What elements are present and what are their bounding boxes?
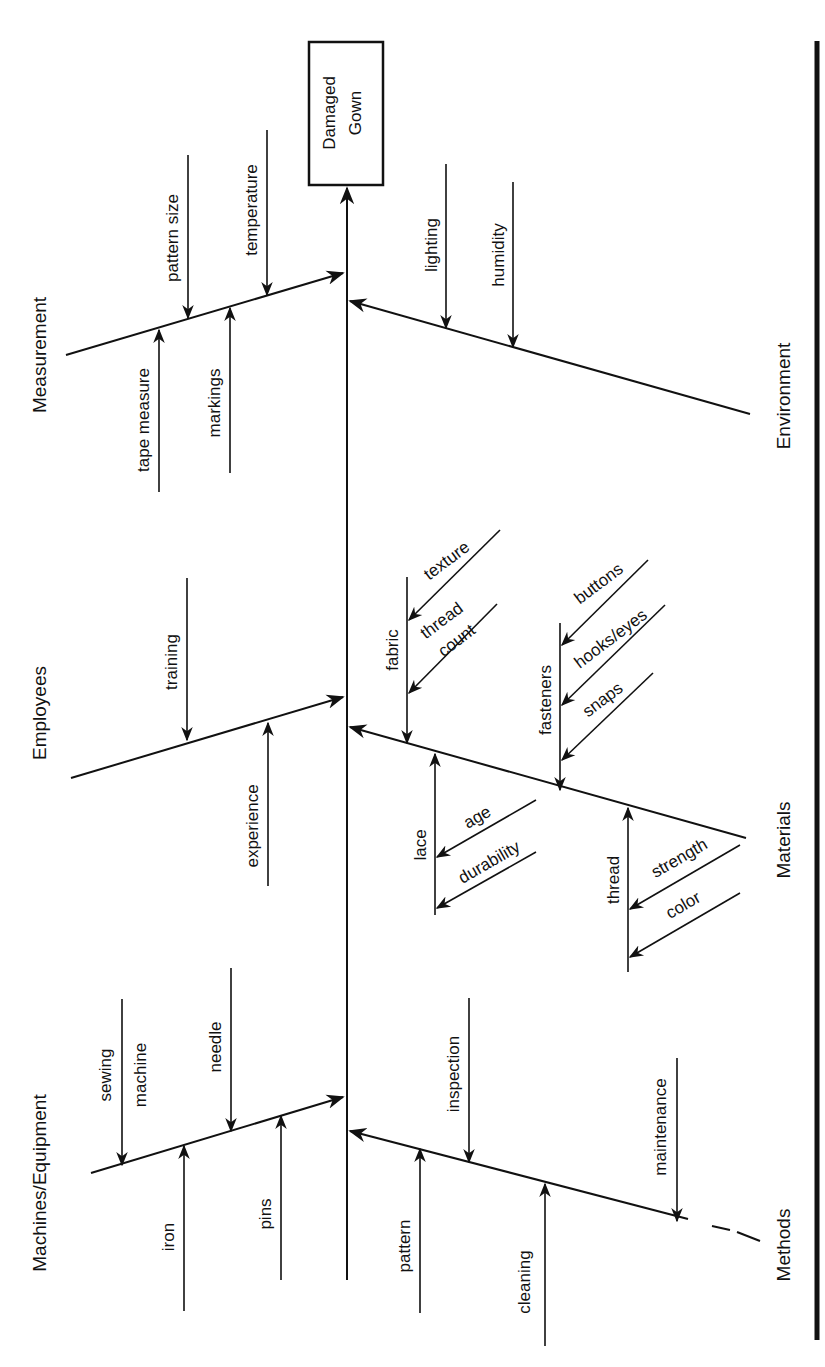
branch-methods: Methods inspection maintenance pattern c… — [350, 998, 794, 1346]
category-employees: Employees — [29, 666, 50, 760]
cause-pins: pins — [256, 1198, 275, 1229]
category-materials: Materials — [773, 801, 794, 878]
effect-label-line1: Damaged — [320, 76, 339, 150]
cause-maintenance: maintenance — [651, 1078, 670, 1175]
branch-employees: Employees training experience — [29, 578, 343, 886]
category-environment: Environment — [773, 342, 794, 449]
effect-label-line2: Gown — [346, 91, 365, 135]
cause-sewing-machine-line2: machine — [131, 1043, 150, 1107]
cause-temperature: temperature — [242, 164, 261, 256]
cause-needle: needle — [206, 1021, 225, 1072]
cause-lighting: lighting — [422, 218, 441, 272]
fishbone-diagram: Damaged Gown Measurement pattern size te… — [0, 0, 825, 1367]
cause-pattern: pattern — [395, 1220, 414, 1273]
cause-markings: markings — [205, 369, 224, 438]
sub-cause-fasteners: fasteners — [536, 665, 555, 735]
sub-cause-thread: thread — [604, 856, 623, 904]
sub-cause-fabric: fabric — [383, 629, 402, 671]
category-methods: Methods — [773, 1209, 794, 1282]
cause-pattern-size: pattern size — [163, 194, 182, 282]
branch-environment: Environment lighting humidity — [350, 164, 794, 449]
cause-buttons: buttons — [571, 559, 627, 608]
branch-measurement: Measurement pattern size temperature tap… — [29, 130, 343, 492]
cause-age: age — [460, 802, 494, 833]
cause-inspection: inspection — [444, 1036, 463, 1113]
cause-experience: experience — [243, 784, 262, 867]
cause-humidity: humidity — [489, 223, 508, 287]
cause-strength: strength — [648, 835, 711, 882]
cause-iron: iron — [159, 1223, 178, 1251]
cause-snaps: snaps — [579, 678, 627, 720]
effect-box: Damaged Gown — [309, 42, 383, 185]
cause-durability: durability — [455, 837, 524, 888]
sub-cause-lace: lace — [411, 829, 430, 860]
cause-texture: texture — [420, 537, 473, 583]
cause-cleaning: cleaning — [515, 1250, 534, 1313]
cause-hooks-eyes: hooks/eyes — [571, 605, 651, 672]
category-machines-equipment: Machines/Equipment — [29, 1094, 50, 1272]
cause-tape-measure: tape measure — [134, 368, 153, 472]
branch-materials: Materials fabric texture thread count fa… — [350, 530, 794, 972]
category-measurement: Measurement — [29, 296, 50, 413]
cause-training: training — [162, 634, 181, 690]
branch-machines: Machines/Equipment sewing machine needle… — [29, 968, 343, 1311]
cause-sewing-machine-line1: sewing — [96, 1049, 115, 1102]
